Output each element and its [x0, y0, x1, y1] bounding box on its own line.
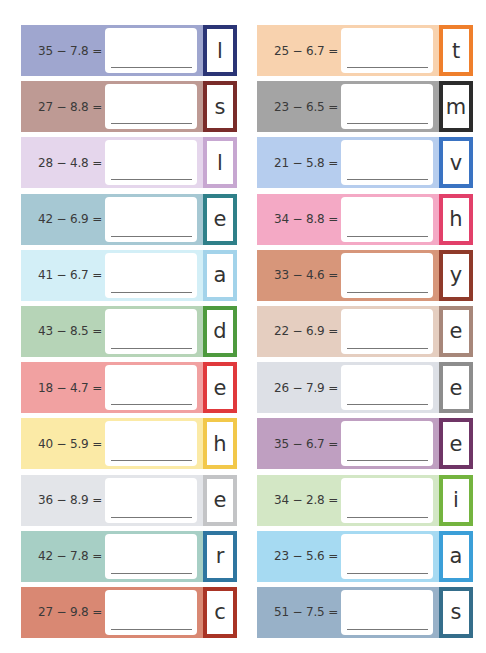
equation-text: 40 − 5.9 = — [21, 437, 105, 451]
problem-card: 23 − 6.5 = m — [257, 81, 473, 132]
problem-card: 28 − 4.8 = l — [21, 137, 237, 188]
problem-band: 27 − 8.8 = — [21, 81, 203, 132]
problem-card: 34 − 8.8 = h — [257, 194, 473, 245]
problem-card: 22 − 6.9 = e — [257, 306, 473, 357]
problem-card: 25 − 6.7 = t — [257, 25, 473, 76]
answer-field[interactable] — [105, 28, 197, 73]
equation-text: 23 − 5.6 = — [257, 549, 341, 563]
answer-field[interactable] — [105, 140, 197, 185]
problem-band: 36 − 8.9 = — [21, 475, 203, 526]
answer-field[interactable] — [341, 534, 433, 579]
answer-underline — [111, 179, 192, 180]
answer-field[interactable] — [341, 253, 433, 298]
problem-band: 43 − 8.5 = — [21, 306, 203, 357]
equation-text: 25 − 6.7 = — [257, 44, 341, 58]
equation-text: 51 − 7.5 = — [257, 605, 341, 619]
code-letter: e — [214, 207, 227, 231]
letter-box: c — [203, 587, 237, 638]
problem-band: 25 − 6.7 = — [257, 25, 439, 76]
problem-band: 22 − 6.9 = — [257, 306, 439, 357]
answer-field[interactable] — [105, 84, 197, 129]
equation-text: 36 − 8.9 = — [21, 493, 105, 507]
code-letter: m — [446, 95, 466, 119]
code-letter: l — [217, 39, 223, 63]
letter-box: i — [439, 475, 473, 526]
answer-field[interactable] — [105, 309, 197, 354]
answer-field[interactable] — [341, 365, 433, 410]
problem-card: 21 − 5.8 = v — [257, 137, 473, 188]
answer-field[interactable] — [341, 28, 433, 73]
problem-card: 40 − 5.9 = h — [21, 418, 237, 469]
code-letter: s — [451, 600, 462, 624]
problem-band: 35 − 7.8 = — [21, 25, 203, 76]
answer-field[interactable] — [105, 478, 197, 523]
problem-card: 34 − 2.8 = i — [257, 475, 473, 526]
letter-box: s — [203, 81, 237, 132]
answer-underline — [111, 629, 192, 630]
equation-text: 27 − 8.8 = — [21, 100, 105, 114]
equation-text: 42 − 7.8 = — [21, 549, 105, 563]
answer-field[interactable] — [105, 365, 197, 410]
answer-field[interactable] — [341, 421, 433, 466]
answer-field[interactable] — [341, 84, 433, 129]
answer-underline — [111, 460, 192, 461]
letter-box: l — [203, 25, 237, 76]
problem-band: 51 − 7.5 = — [257, 587, 439, 638]
problem-card: 42 − 6.9 = e — [21, 194, 237, 245]
code-letter: t — [452, 39, 460, 63]
answer-underline — [347, 123, 428, 124]
problem-band: 35 − 6.7 = — [257, 418, 439, 469]
letter-box: y — [439, 250, 473, 301]
letter-box: v — [439, 137, 473, 188]
answer-field[interactable] — [105, 197, 197, 242]
answer-field[interactable] — [341, 140, 433, 185]
letter-box: d — [203, 306, 237, 357]
letter-box: e — [439, 418, 473, 469]
problem-card: 23 − 5.6 = a — [257, 531, 473, 582]
problem-band: 34 − 2.8 = — [257, 475, 439, 526]
problem-card: 27 − 8.8 = s — [21, 81, 237, 132]
letter-box: m — [439, 81, 473, 132]
letter-box: r — [203, 531, 237, 582]
answer-underline — [347, 573, 428, 574]
answer-underline — [347, 67, 428, 68]
code-letter: y — [450, 263, 462, 287]
answer-field[interactable] — [105, 253, 197, 298]
answer-field[interactable] — [341, 590, 433, 635]
code-letter: e — [214, 488, 227, 512]
code-letter: h — [213, 432, 226, 456]
equation-text: 26 − 7.9 = — [257, 381, 341, 395]
answer-field[interactable] — [105, 590, 197, 635]
letter-box: e — [203, 362, 237, 413]
equation-text: 28 − 4.8 = — [21, 156, 105, 170]
problem-band: 40 − 5.9 = — [21, 418, 203, 469]
answer-underline — [347, 460, 428, 461]
letter-box: e — [439, 362, 473, 413]
equation-text: 43 − 8.5 = — [21, 324, 105, 338]
answer-underline — [347, 292, 428, 293]
equation-text: 22 − 6.9 = — [257, 324, 341, 338]
problem-band: 23 − 5.6 = — [257, 531, 439, 582]
answer-field[interactable] — [341, 197, 433, 242]
letter-box: e — [203, 475, 237, 526]
code-letter: l — [217, 151, 223, 175]
equation-text: 27 − 9.8 = — [21, 605, 105, 619]
answer-underline — [347, 517, 428, 518]
problem-card: 27 − 9.8 = c — [21, 587, 237, 638]
problem-card: 35 − 7.8 = l — [21, 25, 237, 76]
problem-band: 26 − 7.9 = — [257, 362, 439, 413]
answer-underline — [111, 236, 192, 237]
answer-field[interactable] — [341, 309, 433, 354]
code-letter: a — [450, 544, 463, 568]
answer-field[interactable] — [105, 534, 197, 579]
letter-box: e — [439, 306, 473, 357]
equation-text: 35 − 6.7 = — [257, 437, 341, 451]
letter-box: h — [203, 418, 237, 469]
answer-underline — [111, 348, 192, 349]
letter-box: s — [439, 587, 473, 638]
equation-text: 41 − 6.7 = — [21, 268, 105, 282]
answer-field[interactable] — [105, 421, 197, 466]
answer-field[interactable] — [341, 478, 433, 523]
problem-band: 33 − 4.6 = — [257, 250, 439, 301]
problem-card: 18 − 4.7 = e — [21, 362, 237, 413]
